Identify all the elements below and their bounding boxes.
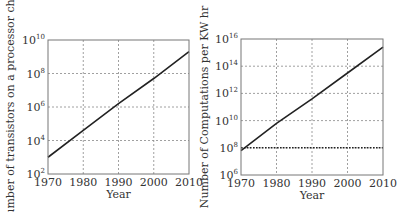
y-axis-label: Number of Computations per KW hr bbox=[198, 5, 211, 208]
x-axis-label: Year bbox=[299, 189, 325, 202]
y-tick-label: 1014 bbox=[215, 59, 238, 73]
y-axis-ticks: 1021041061081010 bbox=[22, 33, 45, 181]
grid bbox=[48, 40, 189, 174]
y-tick-label: 104 bbox=[27, 134, 46, 148]
x-axis-label: Year bbox=[105, 188, 131, 201]
y-tick-label: 108 bbox=[220, 141, 238, 155]
y-tick-label: 1010 bbox=[215, 114, 238, 128]
x-tick-label: 1980 bbox=[263, 177, 291, 190]
y-axis-ticks: 1061081010101210141016 bbox=[215, 32, 238, 182]
y-tick-label: 1010 bbox=[22, 33, 45, 47]
y-tick-label: 1012 bbox=[215, 86, 238, 100]
figure-canvas: 197019801990200020101021041061081010Year… bbox=[0, 0, 406, 212]
y-tick-label: 106 bbox=[27, 100, 46, 114]
computations-chart: 1970198019902000201010610810101012101410… bbox=[198, 5, 397, 208]
x-tick-label: 2010 bbox=[369, 177, 397, 190]
x-tick-label: 2000 bbox=[334, 177, 362, 190]
y-tick-label: 108 bbox=[27, 67, 45, 81]
y-axis-label: Number of transistors on a processor chi… bbox=[4, 0, 17, 212]
transistors-chart: 197019801990200020101021041061081010Year… bbox=[4, 0, 203, 212]
x-tick-label: 2000 bbox=[140, 176, 168, 189]
x-tick-label: 1980 bbox=[69, 176, 97, 189]
y-tick-label: 1016 bbox=[215, 32, 238, 46]
grid bbox=[241, 39, 383, 175]
